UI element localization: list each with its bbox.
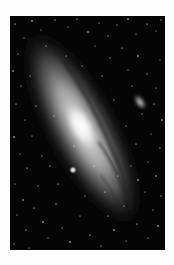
page (0, 0, 174, 265)
galaxy-photograph (10, 16, 165, 250)
satellite-galaxy-compact (69, 166, 77, 174)
galaxy-image (10, 16, 165, 250)
